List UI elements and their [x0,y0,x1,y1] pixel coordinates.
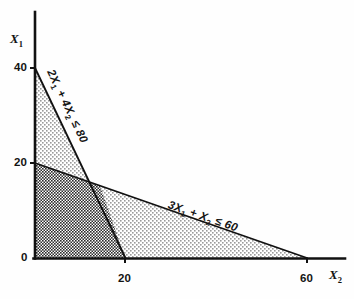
y-axis-label: X1 [10,31,23,49]
x-axis-label: X2 [329,267,342,285]
y-axis-label-text: X [10,31,19,46]
linear-programming-chart: X1 X2 40 20 0 20 60 2X1 + 4X2 ≤ 80 3X1 +… [0,0,354,299]
x-tick-label-20: 20 [118,272,131,284]
x-axis-label-subscript: 2 [338,275,342,285]
y-tick-label-40: 40 [14,61,27,73]
y-tick-label-20: 20 [14,156,27,168]
y-axis-label-subscript: 1 [19,39,23,49]
x-tick-label-60: 60 [300,272,313,284]
y-tick-label-0: 0 [21,251,28,263]
x-axis-label-text: X [329,267,338,282]
plot-area [0,0,354,299]
